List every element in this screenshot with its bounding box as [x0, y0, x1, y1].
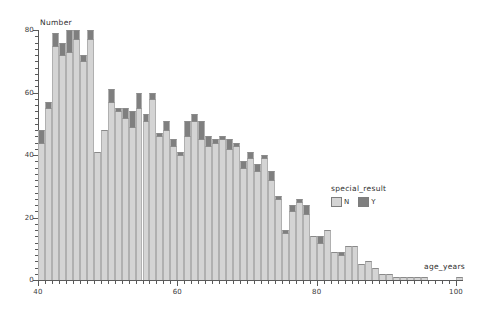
x-axis-tick-minor [428, 281, 429, 284]
histogram-bar-segment [400, 277, 407, 280]
histogram-bar-segment [66, 30, 73, 52]
x-axis-tick-minor [324, 281, 325, 284]
histogram-bar-segment [184, 121, 191, 137]
bars-layer [38, 30, 463, 280]
x-axis-tick-minor [372, 281, 373, 284]
x-axis-tick-minor [247, 281, 248, 284]
histogram-bar-segment [407, 277, 414, 280]
histogram-bar-segment [149, 99, 156, 280]
x-axis-tick-minor [73, 281, 74, 284]
histogram-bar-segment [317, 236, 324, 242]
x-axis-tick-minor [52, 281, 53, 284]
histogram-chart: Number age_years 020406080406080100 spec… [0, 0, 496, 309]
legend-entry[interactable]: Y [358, 197, 375, 207]
x-axis-tick-minor [80, 281, 81, 284]
histogram-bar-segment [372, 268, 379, 281]
histogram-bar-segment [94, 152, 101, 280]
histogram-bar-segment [87, 30, 94, 39]
x-axis-tick-label: 80 [302, 288, 332, 296]
legend-entry[interactable]: N [331, 197, 349, 207]
histogram-bar-segment [191, 121, 198, 280]
x-axis-line [38, 280, 463, 281]
x-axis-tick-minor [184, 281, 185, 284]
x-axis-tick-minor [400, 281, 401, 284]
histogram-bar-segment [143, 114, 150, 120]
histogram-bar-segment [122, 108, 129, 117]
x-axis-tick-minor [87, 281, 88, 284]
legend-label: Y [371, 198, 375, 206]
x-axis-tick-minor [115, 281, 116, 284]
histogram-bar-segment [156, 133, 163, 136]
x-axis-tick-minor [212, 281, 213, 284]
x-axis-tick-minor [240, 281, 241, 284]
x-axis-tick-minor [268, 281, 269, 284]
histogram-bar-segment [317, 243, 324, 281]
histogram-bar-segment [254, 171, 261, 280]
y-axis-tick-label: 0 [10, 276, 34, 284]
histogram-bar-segment [289, 211, 296, 280]
x-axis-tick-minor [149, 281, 150, 284]
x-axis-tick-minor [108, 281, 109, 284]
histogram-bar-segment [66, 52, 73, 280]
histogram-bar-segment [352, 246, 359, 280]
histogram-bar-segment [115, 111, 122, 280]
histogram-bar-segment [310, 236, 317, 280]
y-axis-tick-label: 60 [10, 89, 34, 97]
histogram-bar-segment [59, 43, 66, 56]
x-axis-tick-minor [191, 281, 192, 284]
x-axis-tick-minor [379, 281, 380, 284]
x-axis-tick-minor [289, 281, 290, 284]
legend: special_result NY [331, 184, 386, 207]
histogram-bar-segment [289, 205, 296, 211]
histogram-bar-segment [52, 46, 59, 280]
histogram-bar-segment [129, 111, 136, 127]
x-axis-tick-minor [45, 281, 46, 284]
x-axis-tick-minor [219, 281, 220, 284]
x-axis-tick-minor [136, 281, 137, 284]
histogram-bar-segment [324, 230, 331, 280]
x-axis-tick-minor [129, 281, 130, 284]
histogram-bar-segment [198, 139, 205, 280]
histogram-bar-segment [226, 149, 233, 280]
histogram-bar-segment [136, 108, 143, 280]
histogram-bar-segment [149, 93, 156, 99]
histogram-bar-segment [205, 146, 212, 280]
x-axis-tick-minor [122, 281, 123, 284]
x-axis-tick-minor [296, 281, 297, 284]
histogram-bar-segment [170, 139, 177, 145]
histogram-bar-segment [240, 168, 247, 281]
histogram-bar-segment [358, 264, 365, 280]
histogram-bar-segment [268, 171, 275, 180]
x-axis-tick-minor [254, 281, 255, 284]
histogram-bar-segment [393, 277, 400, 280]
histogram-bar-segment [282, 233, 289, 280]
histogram-bar-segment [386, 274, 393, 280]
histogram-bar-segment [379, 274, 386, 280]
legend-title: special_result [331, 184, 386, 193]
x-axis-tick-major [177, 281, 178, 286]
histogram-bar-segment [261, 158, 268, 280]
legend-swatch [331, 197, 342, 207]
histogram-bar-segment [219, 139, 226, 280]
x-axis-tick-minor [226, 281, 227, 284]
histogram-bar-segment [240, 161, 247, 167]
histogram-bar-segment [163, 130, 170, 280]
plot-area [38, 30, 463, 280]
x-axis-tick-minor [414, 281, 415, 284]
x-axis-tick-minor [442, 281, 443, 284]
histogram-bar-segment [414, 277, 421, 280]
histogram-bar-segment [233, 143, 240, 146]
x-axis-tick-minor [198, 281, 199, 284]
x-axis-tick-minor [386, 281, 387, 284]
histogram-bar-segment [219, 136, 226, 139]
histogram-bar-segment [170, 146, 177, 280]
histogram-bar-segment [331, 252, 338, 280]
x-axis-tick-major [317, 281, 318, 286]
histogram-bar-segment [143, 121, 150, 280]
x-axis-tick-label: 40 [23, 288, 53, 296]
x-axis-tick-major [456, 281, 457, 286]
histogram-bar-segment [254, 164, 261, 170]
histogram-bar-segment [122, 118, 129, 281]
histogram-bar-segment [129, 127, 136, 280]
histogram-bar-segment [38, 130, 45, 143]
